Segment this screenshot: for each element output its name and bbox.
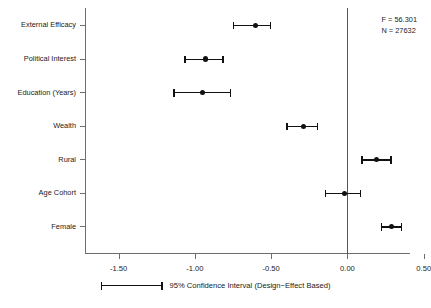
coefficient-plot: F = 56.301 N = 27632 -1.50-1.00-0.500.00…	[0, 0, 431, 308]
category-label: Rural	[58, 153, 76, 166]
x-axis-line	[85, 253, 410, 254]
ci-cap-left	[173, 89, 174, 97]
x-axis-tick	[271, 254, 272, 259]
point-estimate-marker	[200, 90, 205, 95]
ci-cap-right	[401, 223, 402, 231]
category-label: Education (Years)	[18, 86, 76, 99]
category-label: Female	[51, 220, 76, 233]
ci-cap-left	[286, 123, 287, 131]
category-label: External Efficacy	[21, 18, 76, 31]
y-axis-tick	[80, 92, 85, 93]
x-axis-tick-label: -0.50	[262, 264, 279, 273]
x-axis-tick	[347, 254, 348, 259]
y-axis-tick	[80, 25, 85, 26]
x-axis-tick-label: -1.50	[110, 264, 127, 273]
y-axis-tick	[80, 126, 85, 127]
y-axis-line	[85, 8, 86, 254]
ci-cap-left	[184, 56, 185, 64]
category-label: Wealth	[53, 119, 76, 132]
point-estimate-marker	[253, 23, 258, 28]
chart-legend: 95% Confidence Interval (Design−Effect B…	[0, 281, 431, 290]
ci-cap-right	[270, 22, 271, 30]
plot-area: -1.50-1.00-0.500.000.50External Efficacy…	[85, 8, 410, 254]
x-axis-tick	[195, 254, 196, 259]
ci-cap-right	[230, 89, 231, 97]
x-axis-tick	[119, 254, 120, 259]
y-axis-tick	[80, 193, 85, 194]
ci-cap-left	[361, 156, 362, 164]
ci-cap-left	[233, 22, 234, 30]
point-estimate-marker	[203, 56, 208, 61]
ci-cap-right	[390, 156, 391, 164]
x-axis-tick	[424, 254, 425, 259]
category-label: Age Cohort	[39, 186, 76, 199]
ci-cap-left	[325, 190, 326, 198]
ci-cap-left	[381, 223, 382, 231]
legend-ci-symbol	[101, 281, 163, 290]
point-estimate-marker	[342, 191, 347, 196]
x-axis-tick-label: 0.50	[416, 264, 431, 273]
category-label: Political Interest	[24, 52, 76, 65]
point-estimate-marker	[374, 157, 379, 162]
y-axis-tick	[80, 226, 85, 227]
legend-label: 95% Confidence Interval (Design−Effect B…	[170, 281, 331, 290]
y-axis-tick	[80, 159, 85, 160]
x-axis-tick-label: 0.00	[340, 264, 355, 273]
zero-reference-line	[347, 8, 348, 254]
point-estimate-marker	[389, 224, 394, 229]
legend-bar-icon	[101, 285, 163, 286]
x-axis-tick-label: -1.00	[186, 264, 203, 273]
ci-cap-right	[360, 190, 361, 198]
confidence-interval-bar	[233, 25, 271, 26]
legend-cap-right-icon	[161, 282, 162, 290]
ci-cap-right	[317, 123, 318, 131]
y-axis-tick	[80, 59, 85, 60]
point-estimate-marker	[301, 124, 306, 129]
ci-cap-right	[222, 56, 223, 64]
